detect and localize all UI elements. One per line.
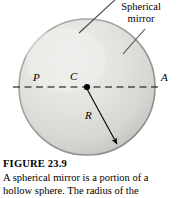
spherical-mirror-diagram: P C A R Spherical mirror bbox=[0, 0, 180, 158]
label-radius-r: R bbox=[85, 110, 92, 121]
label-axis-a: A bbox=[161, 72, 168, 83]
figure-caption: FIGURE 23.9 A spherical mirror is a port… bbox=[3, 157, 179, 197]
caption-title: FIGURE 23.9 bbox=[3, 157, 179, 170]
caption-line-1: A spherical mirror is a portion of a bbox=[3, 172, 179, 185]
label-center-c: C bbox=[70, 71, 77, 82]
label-vertex-p: P bbox=[33, 72, 40, 83]
callout-line-2: mirror bbox=[128, 13, 155, 24]
callout-spherical-mirror: Spherical mirror bbox=[104, 1, 178, 25]
center-point-dot bbox=[84, 84, 90, 90]
caption-line-2: hollow sphere. The radius of the bbox=[3, 185, 179, 198]
callout-line-1: Spherical bbox=[121, 1, 161, 12]
caption-body: A spherical mirror is a portion of a hol… bbox=[3, 172, 179, 197]
figure-container: P C A R Spherical mirror FIGURE 23.9 A s… bbox=[0, 0, 180, 198]
